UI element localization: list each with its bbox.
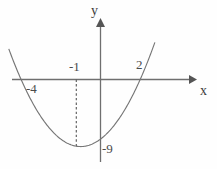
vertex-x-label: -1 xyxy=(69,60,80,73)
parabola-graph-figure: y x -1 -4 2 -9 xyxy=(0,0,217,169)
vertex-y-label: -9 xyxy=(102,142,113,155)
arrow-up-icon xyxy=(96,18,105,27)
arrow-right-icon xyxy=(189,75,197,84)
root-right-label: 2 xyxy=(136,58,143,71)
y-axis-label: y xyxy=(91,4,98,18)
root-left-label: -4 xyxy=(26,82,37,95)
x-axis-label: x xyxy=(200,84,207,98)
